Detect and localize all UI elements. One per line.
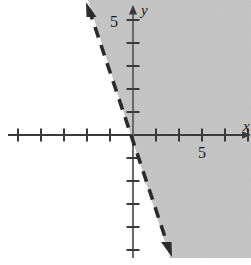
y-axis-tick-label-5: 5 [110, 14, 118, 30]
coordinate-plane-plot [0, 0, 251, 265]
x-axis-label: x [243, 119, 250, 134]
y-axis-label: y [141, 3, 148, 18]
graph-figure: y x 5 5 [0, 0, 251, 265]
x-axis-tick-label-5: 5 [198, 145, 206, 161]
line-arrowhead-bottom [161, 242, 172, 257]
shaded-solution-region [87, 0, 251, 258]
